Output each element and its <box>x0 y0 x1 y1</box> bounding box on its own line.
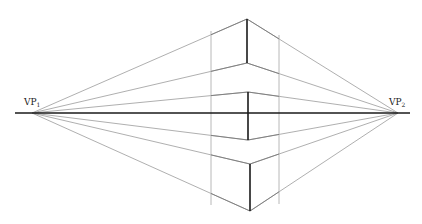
bottom-box-top-left-edge <box>211 155 250 164</box>
perspective-diagram: VP1 VP2 <box>0 0 422 224</box>
bottom-box-bottom-right-edge <box>250 192 279 211</box>
convergence-lines <box>32 19 398 211</box>
bottom-box-top-right-edge <box>250 154 279 164</box>
top-box-top-left-edge <box>211 19 247 35</box>
top-box-top-right-edge <box>247 19 279 39</box>
middle-box-top-left-edge <box>211 92 248 96</box>
front-vertical-edges <box>247 19 250 211</box>
top-box-bottom-right-edge <box>247 63 279 74</box>
vp2-label-subscript: 2 <box>402 101 406 108</box>
vp1-label-subscript: 1 <box>37 101 41 108</box>
vp1-label-text: VP <box>24 97 37 107</box>
vp2-label-text: VP <box>389 97 402 107</box>
bottom-box-bottom-left-edge <box>211 193 250 211</box>
side-vertical-lines <box>211 31 279 205</box>
vanishing-point-2-label: VP2 <box>389 98 405 108</box>
box-edges <box>211 19 279 211</box>
perspective-drawing <box>0 0 422 224</box>
middle-box-top-right-edge <box>248 92 279 96</box>
top-box-bottom-left-edge <box>211 63 247 71</box>
vanishing-point-1-label: VP1 <box>24 98 40 108</box>
middle-box-bottom-left-edge <box>211 135 248 140</box>
middle-box-bottom-right-edge <box>248 134 279 140</box>
